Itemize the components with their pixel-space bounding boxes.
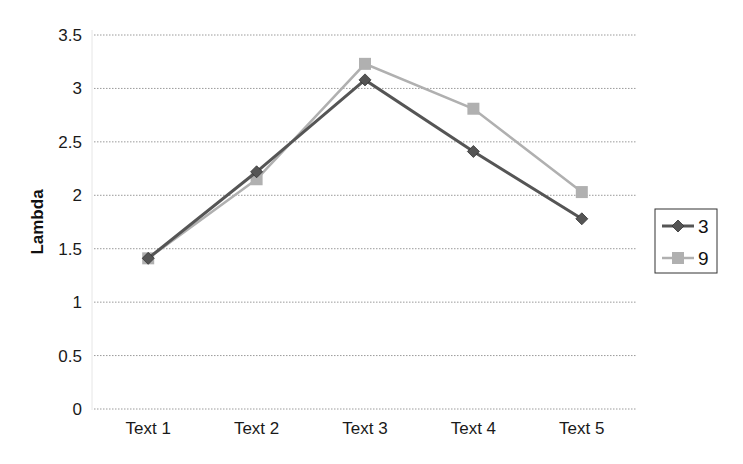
square-marker-icon: [576, 186, 588, 198]
x-axis-ticks: Text 1Text 2Text 3Text 4Text 5: [126, 419, 605, 438]
y-tick-label: 1.5: [58, 240, 82, 259]
legend: 39: [655, 209, 717, 273]
x-tick-label: Text 5: [559, 419, 604, 438]
legend-square-icon: [672, 252, 684, 264]
square-marker-icon: [467, 103, 479, 115]
y-tick-label: 0: [73, 400, 82, 419]
y-tick-label: 3: [73, 79, 82, 98]
y-tick-label: 2.5: [58, 133, 82, 152]
series-line: [148, 64, 582, 258]
y-axis-label: Lambda: [28, 189, 47, 255]
y-tick-label: 2: [73, 186, 82, 205]
x-tick-label: Text 2: [234, 419, 279, 438]
series-3: [142, 74, 588, 264]
line-chart: 00.511.522.533.5 Lambda Text 1Text 2Text…: [0, 0, 743, 464]
x-tick-label: Text 3: [342, 419, 387, 438]
x-tick-label: Text 4: [451, 419, 496, 438]
legend-label: 3: [698, 216, 709, 237]
y-axis-ticks: 00.511.522.533.5: [58, 26, 82, 419]
gridlines: [94, 35, 636, 409]
y-tick-label: 0.5: [58, 347, 82, 366]
x-tick-label: Text 1: [126, 419, 171, 438]
y-tick-label: 1: [73, 293, 82, 312]
legend-label: 9: [698, 248, 709, 269]
series-line: [148, 80, 582, 258]
square-marker-icon: [359, 58, 371, 70]
y-tick-label: 3.5: [58, 26, 82, 45]
